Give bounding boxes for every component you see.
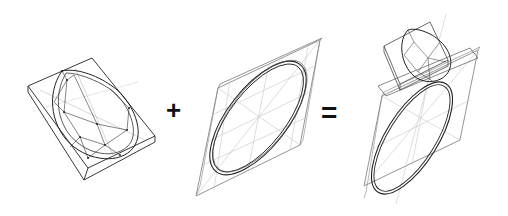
ring-panel bbox=[356, 14, 480, 206]
gem-panel bbox=[28, 58, 155, 180]
plus-operator: + bbox=[166, 97, 181, 123]
equals-operator: = bbox=[321, 99, 337, 127]
band-panel bbox=[192, 38, 324, 196]
diagram-canvas bbox=[0, 0, 508, 216]
